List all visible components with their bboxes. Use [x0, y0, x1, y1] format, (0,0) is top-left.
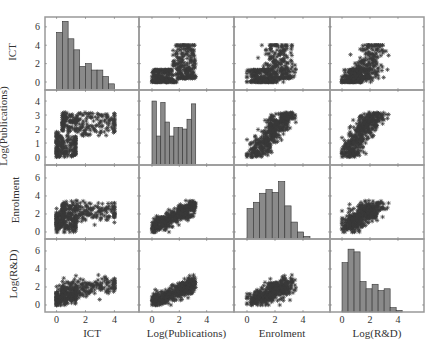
scatter-point [269, 118, 273, 122]
scatter-point [160, 75, 164, 79]
scatter-point [55, 134, 59, 138]
histogram-bar [266, 190, 272, 239]
scatter-point [106, 287, 110, 291]
scatter-point [167, 230, 171, 234]
scatter-point [79, 219, 83, 223]
scatter-point [271, 129, 275, 133]
scatter-point [359, 137, 363, 141]
scatter-point [366, 126, 370, 130]
scatter-point [59, 303, 63, 307]
histogram-bar [272, 192, 278, 239]
scatter-point [263, 149, 267, 153]
scatter-point [285, 55, 289, 59]
scatter-point [293, 63, 297, 67]
scatter-point [347, 202, 351, 206]
scatter-point [289, 45, 293, 49]
scatter-point [267, 286, 271, 290]
panel-3-1 [139, 239, 234, 312]
histogram-bar [360, 282, 366, 312]
histogram-bar [178, 128, 182, 165]
scatter-point [96, 201, 100, 205]
scatter-point [356, 73, 360, 77]
scatter-point [152, 230, 156, 234]
scatter-point [175, 56, 179, 60]
scatter-point [363, 120, 367, 124]
scatter-point [154, 298, 158, 302]
x-tick-label: 2 [177, 314, 182, 325]
panel-1-0 [45, 90, 139, 165]
scatter-point [77, 122, 81, 126]
scatter-point [191, 202, 195, 206]
scatter-point [54, 303, 58, 307]
scatter-point [289, 278, 293, 282]
scatter-point [75, 126, 79, 130]
scatter-point [257, 289, 261, 293]
scatter-point [352, 222, 356, 226]
scatter-point [109, 201, 113, 205]
scatter-point [357, 123, 361, 127]
scatter-point [250, 154, 254, 158]
scatter-point [386, 53, 390, 57]
scatter-point [167, 69, 171, 73]
scatter-point [272, 114, 276, 118]
scatter-point [257, 144, 261, 148]
scatter-point [159, 71, 163, 75]
scatter-point [175, 220, 179, 224]
scatter-point [88, 289, 92, 293]
scatter-point [266, 63, 270, 67]
histogram-bar [97, 70, 103, 90]
scatter-point [69, 199, 73, 203]
scatter-point [350, 230, 354, 234]
scatter-point [275, 68, 279, 72]
scatter-point [258, 303, 262, 307]
y-tick-label: 1 [35, 138, 40, 149]
histogram-bar [68, 39, 74, 90]
scatter-point [261, 64, 265, 68]
histogram-bar [187, 119, 191, 165]
scatter-point [183, 63, 187, 67]
scatter-point [69, 154, 73, 158]
scatter-point [347, 132, 351, 136]
scatter-point [366, 215, 370, 219]
scatter-point [62, 276, 66, 280]
scatter-point [252, 146, 256, 150]
scatter-point [111, 285, 115, 289]
scatter-point [160, 215, 164, 219]
scatter-point [273, 126, 277, 130]
scatter-point [109, 116, 113, 120]
y-tick-label: 6 [35, 172, 40, 183]
scatter-point [379, 63, 383, 67]
scatter-point [170, 213, 174, 217]
scatter-point [288, 298, 292, 302]
scatter-point [256, 77, 260, 81]
scatter-point [176, 205, 180, 209]
scatter-point [277, 292, 281, 296]
scatter-point [59, 135, 63, 139]
scatter-point [90, 115, 94, 119]
scatter-point [371, 111, 375, 115]
scatter-point [164, 211, 168, 215]
scatter-point [67, 149, 71, 153]
scatter-point [71, 137, 75, 141]
panel-1-1 [139, 90, 234, 165]
scatter-point [274, 295, 278, 299]
scatter-point [366, 67, 370, 71]
y-tick-label: 0 [35, 77, 40, 88]
scatter-point [174, 44, 178, 48]
x-tick-label: 2 [368, 314, 373, 325]
scatter-point [348, 52, 352, 56]
scatter-point [65, 280, 69, 284]
scatter-point [378, 45, 382, 49]
scatter-point [158, 298, 162, 302]
scatter-point [167, 73, 171, 77]
histogram-bar [165, 122, 169, 165]
histogram-bar [161, 102, 165, 165]
scatter-point [81, 199, 85, 203]
scatter-point [342, 146, 346, 150]
scatter-point [245, 152, 249, 156]
scatter-point [81, 278, 85, 282]
scatter-point [359, 219, 363, 223]
scatter-point [154, 80, 158, 84]
scatter-point [69, 226, 73, 230]
scatter-point [166, 79, 170, 83]
